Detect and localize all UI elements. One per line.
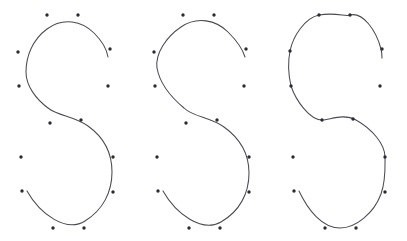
control-point[interactable] — [76, 13, 79, 16]
figure-background — [0, 0, 407, 241]
spline-figure-canvas — [0, 0, 407, 241]
control-point[interactable] — [383, 190, 386, 193]
control-point[interactable] — [288, 49, 291, 52]
control-point[interactable] — [244, 47, 247, 50]
control-point[interactable] — [20, 189, 23, 192]
control-point[interactable] — [111, 190, 114, 193]
control-point[interactable] — [45, 13, 48, 16]
control-point[interactable] — [291, 155, 294, 158]
control-point[interactable] — [16, 50, 19, 53]
control-point[interactable] — [184, 121, 187, 124]
control-point[interactable] — [383, 155, 386, 158]
control-point[interactable] — [187, 226, 190, 229]
control-point[interactable] — [247, 190, 250, 193]
control-point[interactable] — [79, 118, 82, 121]
control-point[interactable] — [156, 189, 159, 192]
control-point[interactable] — [247, 155, 250, 158]
control-point[interactable] — [111, 155, 114, 158]
control-point[interactable] — [215, 118, 218, 121]
control-point[interactable] — [153, 84, 156, 87]
control-point[interactable] — [108, 47, 111, 50]
control-point[interactable] — [106, 84, 109, 87]
control-point[interactable] — [320, 118, 323, 121]
control-point[interactable] — [218, 226, 221, 229]
control-point[interactable] — [378, 84, 381, 87]
control-point[interactable] — [51, 226, 54, 229]
control-point[interactable] — [181, 13, 184, 16]
control-point[interactable] — [289, 84, 292, 87]
control-point[interactable] — [152, 50, 155, 53]
control-point[interactable] — [212, 13, 215, 16]
control-point[interactable] — [317, 13, 320, 16]
control-point[interactable] — [351, 117, 354, 120]
control-point[interactable] — [242, 84, 245, 87]
control-point[interactable] — [155, 155, 158, 158]
control-point[interactable] — [380, 47, 383, 50]
control-point[interactable] — [82, 226, 85, 229]
control-point[interactable] — [354, 226, 357, 229]
control-point[interactable] — [323, 226, 326, 229]
spline-figure-root — [0, 0, 407, 241]
control-point[interactable] — [292, 189, 295, 192]
control-point[interactable] — [48, 121, 51, 124]
control-point[interactable] — [19, 155, 22, 158]
control-point[interactable] — [348, 13, 351, 16]
control-point[interactable] — [17, 84, 20, 87]
